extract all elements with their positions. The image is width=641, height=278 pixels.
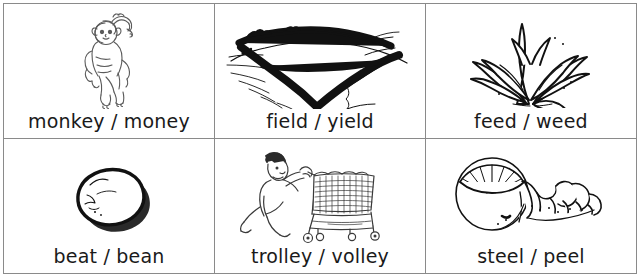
cell-label-steel-peel: steel / peel [426,247,636,273]
cell-label-feed-weed: feed / weed [426,112,636,138]
bean-illustration [4,139,214,247]
monkey-illustration [4,4,214,112]
cell-label-field-yield: field / yield [215,112,425,138]
worksheet-grid-container: monkey / money [0,0,641,278]
orange-peel-illustration [426,139,636,247]
grid-cell-field-yield[interactable]: field / yield [215,4,425,138]
cell-label-beat-bean: beat / bean [4,247,214,273]
grid-cell-trolley-volley[interactable]: trolley / volley [215,139,425,273]
field-illustration [215,4,425,112]
cell-label-trolley-volley: trolley / volley [215,247,425,273]
trolley-illustration [215,139,425,247]
grid-cell-steel-peel[interactable]: steel / peel [426,139,636,273]
grid-cell-feed-weed[interactable]: feed / weed [426,4,636,138]
picture-grid: monkey / money [3,3,637,274]
cell-label-monkey-money: monkey / money [4,112,214,138]
weed-illustration [426,4,636,112]
grid-cell-monkey-money[interactable]: monkey / money [4,4,214,138]
grid-cell-beat-bean[interactable]: beat / bean [4,139,214,273]
